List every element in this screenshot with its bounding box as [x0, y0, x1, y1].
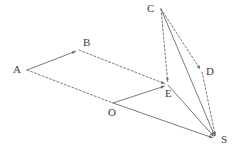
edge-A-B [27, 51, 76, 70]
vector-diagram-figure: ABOECDS [0, 0, 237, 155]
vertex-label-c: C [147, 3, 154, 14]
edge-layer [27, 9, 215, 138]
edge-A-O [27, 70, 113, 103]
vertex-label-b: B [83, 37, 90, 48]
vertex-label-e: E [165, 88, 172, 99]
edge-C-D [161, 9, 200, 69]
edge-O-S [113, 103, 213, 138]
edge-C-E [161, 9, 168, 81]
vertex-label-s: S [221, 134, 227, 145]
edge-B-E [79, 50, 165, 84]
vertex-label-d: D [206, 66, 214, 77]
vertex-label-o: O [108, 107, 116, 118]
edge-O-E [113, 86, 165, 103]
diagram-canvas [0, 0, 237, 155]
vertex-label-a: A [13, 64, 21, 75]
